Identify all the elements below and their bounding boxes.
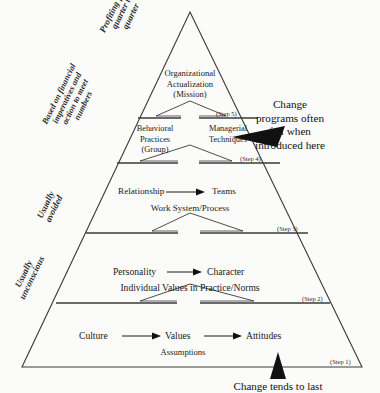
step-tag-step4: (Step 4) bbox=[240, 155, 261, 162]
step-tag-step3: (Step 3) bbox=[277, 225, 298, 232]
behavioral-line-1: Behavioral bbox=[137, 124, 174, 135]
annotation-change-programs-fail: Change programs often fail when introduc… bbox=[200, 98, 380, 153]
org-line-1: Organizational bbox=[165, 68, 216, 79]
divider-step3 bbox=[86, 213, 308, 233]
band-teams-label: Teams bbox=[212, 186, 236, 196]
band-individual-values: Individual Values in Practice/Norms bbox=[120, 282, 259, 293]
band-attitudes-label: Attitudes bbox=[246, 330, 281, 341]
band-work-system-process: Work System/Process bbox=[151, 203, 230, 213]
band-organizational-actualization: Organizational Actualization (Mission) bbox=[165, 68, 216, 100]
behavioral-line-3: (Group) bbox=[137, 145, 174, 156]
fail-note-line-4: introduced here bbox=[200, 139, 380, 153]
fail-note-line-2: programs often bbox=[200, 112, 380, 126]
band-behavioral-practices: Behavioral Practices (Group) bbox=[137, 124, 174, 156]
band-values-label: Values bbox=[165, 330, 191, 341]
annotation-change-tends-to-last: Change tends to last bbox=[234, 380, 323, 393]
fail-note-line-3: fail when bbox=[200, 125, 380, 139]
band-character-label: Character bbox=[207, 266, 244, 277]
step-tag-step2: (Step 2) bbox=[302, 295, 323, 302]
band-relationship-label: Relationship bbox=[118, 186, 164, 196]
band-culture-label: Culture bbox=[79, 330, 108, 341]
last-note-arrow bbox=[270, 352, 286, 379]
behavioral-line-2: Practices bbox=[137, 135, 174, 146]
band-assumptions-label: Assumptions bbox=[161, 347, 206, 357]
band-personality-label: Personality bbox=[113, 266, 156, 277]
step-tag-step1: (Step 1) bbox=[330, 358, 351, 365]
org-line-2: Actualization bbox=[165, 79, 216, 90]
fail-note-line-1: Change bbox=[200, 98, 380, 112]
